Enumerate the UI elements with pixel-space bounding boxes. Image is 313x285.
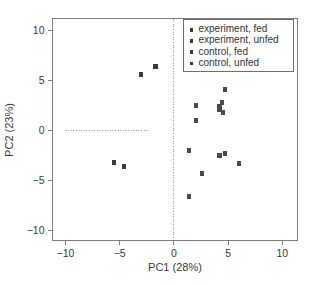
y-tick-label: 10 — [33, 24, 45, 36]
x-tick-label: 10 — [276, 247, 288, 259]
y-tick-label: 0 — [39, 124, 45, 136]
x-tick-label: 0 — [171, 247, 177, 259]
x-tick-label: 5 — [225, 247, 231, 259]
data-point — [153, 64, 157, 68]
data-point — [194, 103, 198, 107]
data-point — [217, 107, 221, 111]
data-point — [200, 171, 204, 175]
x-tick-label: −10 — [57, 247, 75, 259]
data-point — [223, 151, 227, 155]
data-point — [237, 161, 241, 165]
legend-marker-1 — [190, 39, 194, 43]
data-point — [112, 160, 116, 164]
data-point — [187, 148, 191, 152]
y-tick-label: −5 — [33, 174, 45, 186]
reference-lines-group — [66, 19, 174, 241]
legend-group: experiment, fedexperiment, unfedcontrol,… — [184, 20, 294, 72]
legend-label-2[interactable]: control, fed — [199, 46, 248, 57]
data-point — [187, 194, 191, 198]
pca-scatter-figure: −10−505101050−5−10 experiment, fedexperi… — [0, 0, 313, 285]
y-tick-label: −10 — [27, 224, 45, 236]
legend-label-0[interactable]: experiment, fed — [199, 23, 268, 34]
legend-marker-0 — [190, 28, 194, 32]
data-point — [223, 87, 227, 91]
x-tick-label: −5 — [114, 247, 126, 259]
y-tick-label: 5 — [39, 74, 45, 86]
x-axis-title: PC1 (28%) — [148, 261, 202, 273]
data-point — [122, 164, 126, 168]
y-axis-title: PC2 (23%) — [3, 103, 15, 157]
legend-marker-2 — [190, 50, 194, 54]
legend-label-1[interactable]: experiment, unfed — [199, 34, 279, 45]
data-point — [194, 118, 198, 122]
plot-canvas: −10−505101050−5−10 experiment, fedexperi… — [0, 0, 313, 285]
legend-marker-3 — [190, 62, 194, 66]
data-point — [220, 100, 224, 104]
data-point — [139, 72, 143, 76]
data-points-group — [112, 64, 241, 198]
legend-label-3[interactable]: control, unfed — [199, 57, 260, 68]
data-point — [217, 153, 221, 157]
